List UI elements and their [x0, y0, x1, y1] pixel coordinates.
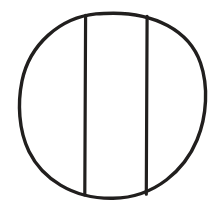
canvas-background: [0, 0, 218, 206]
figure-canvas: [0, 0, 218, 206]
chord-right-line: [146, 16, 147, 194]
chord-left-line: [85, 15, 86, 195]
line-drawing-svg: [0, 0, 218, 206]
